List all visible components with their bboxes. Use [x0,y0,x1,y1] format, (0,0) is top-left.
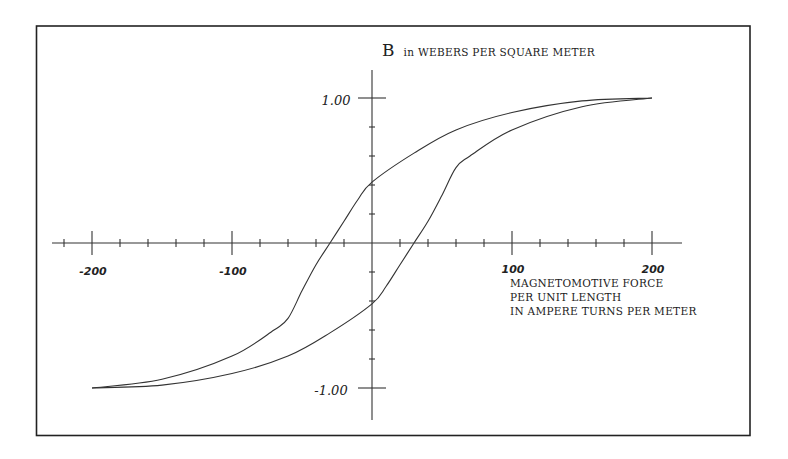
y-axis-title-symbol: B [382,40,395,60]
x-tick-label-neg200: -200 [79,265,107,278]
y-axis-title: B in WEBERS PER SQUARE METER [382,40,596,60]
y-axis-title-units: in WEBERS PER SQUARE METER [404,46,596,58]
x-tick-label-neg100: -100 [219,265,247,278]
x-axis-title-line2: PER UNIT LENGTH [510,291,621,303]
y-tick-label-neg1: -1.00 [314,383,347,398]
y-tick-label-1: 1.00 [322,93,351,108]
hysteresis-chart: B in WEBERS PER SQUARE METER 1.00 -1.00 … [0,0,788,459]
x-axis-title-line3: IN AMPERE TURNS PER METER [510,305,697,317]
x-tick-label-100: 100 [502,263,525,276]
axes [52,70,682,420]
chart-frame [37,26,751,436]
x-axis-title-line1: MAGNETOMOTIVE FORCE [510,277,663,289]
x-tick-label-200: 200 [642,263,665,276]
